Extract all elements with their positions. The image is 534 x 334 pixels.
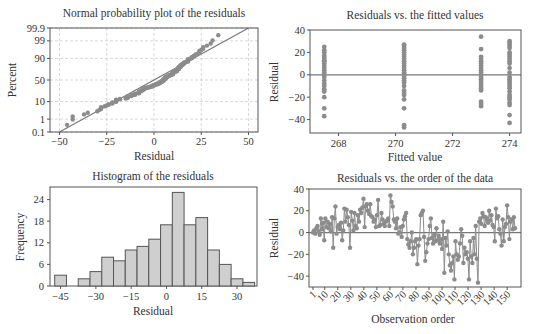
data-point: [424, 250, 428, 254]
data-point: [340, 238, 344, 242]
data-point: [434, 226, 438, 230]
data-point: [498, 231, 502, 235]
data-point: [99, 105, 103, 109]
y-axis-label: Residual: [268, 218, 280, 258]
data-point: [428, 224, 432, 228]
data-point: [334, 231, 338, 235]
data-point: [411, 252, 415, 256]
x-tick-label: 30: [232, 291, 243, 302]
plot-title: Residuals vs. the order of the data: [337, 172, 493, 184]
x-tick-label: 0: [151, 136, 156, 147]
data-point: [496, 214, 500, 218]
data-point: [65, 123, 69, 127]
histogram-bar: [219, 264, 231, 286]
data-point: [82, 112, 86, 116]
data-point: [332, 216, 336, 220]
data-point: [472, 252, 476, 256]
data-point: [339, 221, 343, 225]
data-point: [322, 106, 327, 111]
x-tick-label: 274: [502, 138, 519, 149]
data-point: [507, 66, 512, 71]
x-tick-label: −50: [51, 136, 67, 147]
data-point: [341, 228, 345, 232]
data-point: [425, 241, 429, 245]
data-point: [489, 213, 493, 217]
y-tick-label: 90: [35, 53, 46, 64]
x-tick-label: 272: [445, 138, 461, 149]
y-axis-label: Frequency: [14, 212, 27, 261]
data-point: [507, 103, 512, 108]
histogram-bar: [184, 225, 196, 286]
data-point: [444, 243, 448, 247]
x-tick-label: 15: [196, 291, 207, 302]
data-point: [461, 261, 465, 265]
data-point: [383, 224, 387, 228]
data-point: [494, 206, 498, 210]
data-point: [133, 91, 137, 95]
histogram-plot: Histogram of the residuals 06121824 −45−…: [14, 170, 257, 317]
data-point: [471, 236, 475, 240]
data-point: [408, 239, 412, 243]
data-point: [438, 241, 442, 245]
histogram-bar: [231, 279, 243, 286]
data-point: [459, 227, 463, 231]
y-tick-label: 10: [35, 96, 46, 107]
data-point: [404, 211, 408, 215]
data-point: [470, 261, 474, 265]
y-axis-label: Percent: [6, 62, 18, 97]
data-point: [402, 93, 407, 98]
data-point: [415, 262, 419, 266]
data-point: [497, 227, 501, 231]
data-point: [417, 237, 421, 241]
data-point: [422, 235, 426, 239]
data-point: [502, 239, 506, 243]
data-point: [479, 47, 484, 52]
data-point: [445, 229, 449, 233]
data-point: [507, 61, 512, 66]
data-point: [429, 216, 433, 220]
data-point: [458, 241, 462, 245]
data-point: [395, 216, 399, 220]
four-in-one-residual-plots: Normal probability plot of the residuals…: [0, 0, 534, 334]
data-point: [386, 216, 390, 220]
data-point: [407, 246, 411, 250]
data-point: [125, 94, 129, 98]
y-tick-label: 40: [294, 184, 305, 195]
data-point: [343, 219, 347, 223]
data-point: [476, 280, 480, 284]
x-tick-label: 268: [331, 138, 347, 149]
x-tick-label: 25: [196, 136, 207, 147]
y-tick-label: −20: [288, 249, 304, 260]
data-point: [359, 211, 363, 215]
data-point: [402, 84, 407, 89]
residuals-vs-fitted-plot: Residuals vs. the fitted values 40200−20…: [268, 9, 521, 163]
data-point: [500, 217, 504, 221]
data-point: [110, 100, 114, 104]
data-point: [322, 238, 326, 242]
y-tick-label: 20: [294, 205, 305, 216]
y-tick-label: 24: [34, 194, 45, 205]
data-point: [201, 45, 205, 49]
y-tick-label: 18: [34, 216, 45, 227]
y-tick-label: 0: [299, 227, 304, 238]
data-point: [397, 230, 401, 234]
x-axis-label: Observation order: [371, 313, 455, 325]
y-tick-label: −40: [288, 271, 304, 282]
data-point: [465, 250, 469, 254]
data-point: [423, 259, 427, 263]
data-point: [439, 237, 443, 241]
y-tick-label: 0: [39, 281, 44, 292]
normal-probability-plot: Normal probability plot of the residuals…: [6, 7, 258, 162]
plot-title: Normal probability plot of the residuals: [63, 7, 246, 20]
data-point: [322, 89, 327, 94]
data-point: [410, 230, 414, 234]
data-point: [379, 211, 383, 215]
data-point: [450, 261, 454, 265]
data-point: [504, 222, 508, 226]
data-point: [216, 33, 220, 37]
x-tick-label: 270: [388, 138, 404, 149]
histogram-bar: [161, 225, 173, 286]
data-point: [491, 225, 495, 229]
data-point: [329, 229, 333, 233]
data-point: [460, 234, 464, 238]
